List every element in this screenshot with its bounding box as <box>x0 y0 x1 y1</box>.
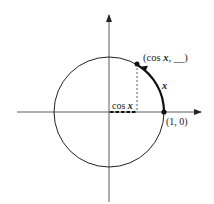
cos-label: cos x <box>112 100 133 111</box>
point-on-circle <box>135 62 140 67</box>
arc-label: x <box>161 80 167 91</box>
point-one-zero <box>161 109 166 114</box>
unit-circle-diagram: (cos x, __) x cos x (1, 0) <box>0 0 214 204</box>
point-label: (cos x, __) <box>143 52 188 64</box>
arc-x <box>137 65 164 112</box>
one-zero-label: (1, 0) <box>166 116 188 128</box>
